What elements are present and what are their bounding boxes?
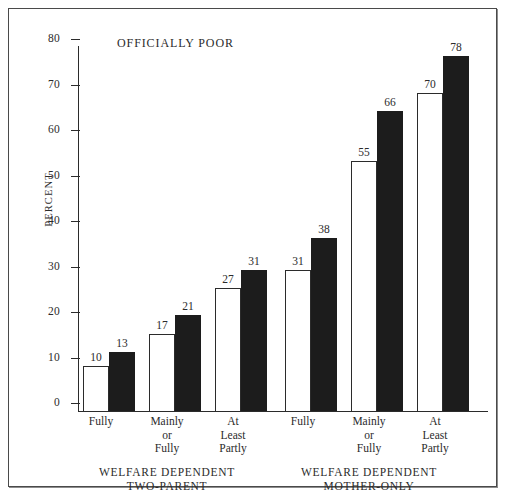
- y-tick-label-wrap: 10: [34, 352, 60, 364]
- x-axis-line: [78, 411, 488, 412]
- bar-solid: [443, 56, 469, 411]
- bar-value-label: 31: [237, 255, 271, 267]
- bar-value-label: 17: [145, 319, 179, 331]
- category-label-line: Partly: [185, 442, 281, 456]
- bar-value-label: 78: [439, 41, 473, 53]
- bar-value-label: 31: [281, 255, 315, 267]
- y-tick-label: 40: [34, 215, 60, 227]
- category-label: AtLeastPartly: [387, 415, 483, 456]
- y-tick-label: 70: [34, 79, 60, 91]
- y-tick-label-wrap: 70: [34, 79, 60, 91]
- category-label-line: Partly: [387, 442, 483, 456]
- y-tick-label-wrap: 40: [34, 215, 60, 227]
- bar-open: [417, 93, 443, 412]
- y-tick-label: 0: [34, 397, 60, 409]
- y-tick-label-wrap: 60: [34, 124, 60, 136]
- group-label-line: WELFARE DEPENDENT: [57, 465, 277, 479]
- y-tick-label: 30: [34, 261, 60, 273]
- group-label: WELFARE DEPENDENTTWO-PARENT: [57, 465, 277, 493]
- bar-value-label: 21: [171, 300, 205, 312]
- y-tick-label-wrap: 0: [34, 397, 60, 409]
- y-tick-label-wrap: 80: [34, 33, 60, 45]
- bar-open: [149, 334, 175, 411]
- category-label-line: Least: [387, 429, 483, 443]
- bar-open: [83, 366, 109, 412]
- y-tick-label: 20: [34, 306, 60, 318]
- y-tick-mark: [71, 39, 80, 40]
- group-label-line: WELFARE DEPENDENT: [259, 465, 479, 479]
- bar-value-label: 10: [79, 351, 113, 363]
- y-axis-title: PERCENT: [43, 155, 54, 245]
- group-label: WELFARE DEPENDENTMOTHER-ONLY: [259, 465, 479, 493]
- bar-value-label: 13: [105, 337, 139, 349]
- y-tick-label-wrap: 20: [34, 306, 60, 318]
- bar-value-label: 66: [373, 96, 407, 108]
- y-tick-label-wrap: 50: [34, 170, 60, 182]
- bar-value-label: 27: [211, 273, 245, 285]
- y-tick-label: 80: [34, 33, 60, 45]
- plot-area: 101317212731313855667078: [78, 47, 487, 411]
- figure-frame: OFFICIALLY POOR PERCENT 0102030405060708…: [8, 8, 497, 487]
- bar-value-label: 38: [307, 223, 341, 235]
- bar-open: [285, 270, 311, 411]
- bar-solid: [241, 270, 267, 411]
- y-tick-label: 50: [34, 170, 60, 182]
- bar-open: [351, 161, 377, 411]
- category-label-line: At: [387, 415, 483, 429]
- bar-value-label: 55: [347, 146, 381, 158]
- category-label-line: Least: [185, 429, 281, 443]
- group-label-line: MOTHER-ONLY: [259, 479, 479, 493]
- bar-open: [215, 288, 241, 411]
- group-label-line: TWO-PARENT: [57, 479, 277, 493]
- bar-value-label: 70: [413, 78, 447, 90]
- y-tick-label: 10: [34, 352, 60, 364]
- y-tick-label-wrap: 30: [34, 261, 60, 273]
- y-tick-label: 60: [34, 124, 60, 136]
